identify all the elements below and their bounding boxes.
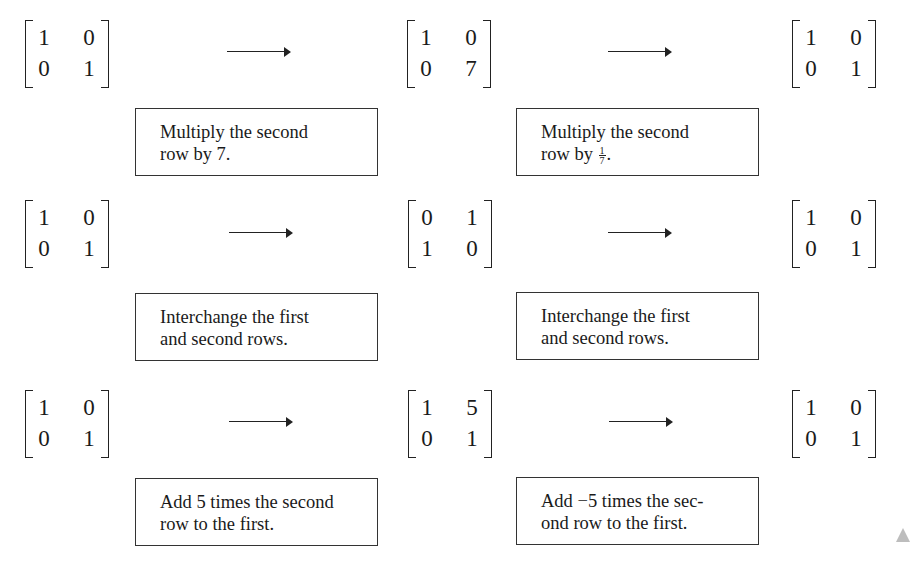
operation-text-line: and second rows. — [541, 327, 748, 349]
matrix-cell: 0 — [35, 237, 53, 260]
right-arrow-icon — [609, 416, 673, 428]
matrix-cell: 0 — [80, 206, 98, 229]
operation-text-line: Add 5 times the second — [160, 491, 367, 513]
identity-matrix-row1: 1 0 0 1 — [25, 20, 109, 88]
matrix-cell: 1 — [80, 57, 98, 80]
result-matrix-row3: 1 0 0 1 — [792, 390, 876, 458]
matrix-cell: 1 — [35, 206, 53, 229]
matrix-cell: 0 — [418, 427, 436, 450]
right-arrow-icon — [608, 227, 672, 239]
matrix-cell: 1 — [35, 396, 53, 419]
matrix-cell: 1 — [80, 427, 98, 450]
left-bracket — [408, 200, 416, 268]
matrix-cell: 1 — [847, 427, 865, 450]
right-arrow-icon — [229, 416, 293, 428]
right-arrow-icon — [608, 46, 672, 58]
operation-text-line: row by 7. — [160, 143, 367, 165]
result-matrix-row2: 1 0 0 1 — [792, 200, 876, 268]
result-matrix-row1: 1 0 0 1 — [792, 20, 876, 88]
operation-text-line: ond row to the first. — [541, 512, 748, 534]
matrix-cell: 0 — [802, 57, 820, 80]
left-bracket — [408, 390, 416, 458]
left-bracket — [25, 200, 33, 268]
matrix-cell: 5 — [463, 396, 481, 419]
matrix-cell: 0 — [462, 26, 480, 49]
left-bracket — [792, 20, 800, 88]
operation-text-line: Multiply the second — [541, 121, 748, 143]
operation-text-line: row to the first. — [160, 513, 367, 535]
elementary-matrix-row3: 1 5 0 1 — [408, 390, 492, 458]
page-corner-marker-icon — [896, 528, 910, 542]
inverse-operation-box: Multiply the second row by 17. — [516, 108, 759, 176]
right-bracket — [484, 200, 492, 268]
operation-text-line: Interchange the first — [160, 306, 367, 328]
text: row by — [541, 144, 598, 164]
inverse-operation-box: Interchange the first and second rows. — [516, 292, 759, 360]
matrix-cell: 1 — [463, 206, 481, 229]
inverse-operation-box: Add −5 times the sec- ond row to the fir… — [516, 477, 759, 545]
operation-box: Interchange the first and second rows. — [135, 293, 378, 361]
matrix-cell: 0 — [35, 57, 53, 80]
matrix-cell: 0 — [802, 427, 820, 450]
operation-box: Add 5 times the second row to the first. — [135, 478, 378, 546]
matrix-cell: 0 — [847, 206, 865, 229]
matrix-cell: 1 — [802, 26, 820, 49]
elementary-matrix-row2: 0 1 1 0 — [408, 200, 492, 268]
matrix-cell: 0 — [463, 237, 481, 260]
right-arrow-icon — [227, 46, 291, 58]
matrix-cell: 0 — [417, 57, 435, 80]
matrix-cell: 0 — [802, 237, 820, 260]
left-bracket — [792, 200, 800, 268]
matrix-cell: 1 — [847, 57, 865, 80]
identity-matrix-row3: 1 0 0 1 — [25, 390, 109, 458]
operation-text-line: row by 17. — [541, 143, 748, 165]
right-bracket — [868, 200, 876, 268]
matrix-cell: 1 — [847, 237, 865, 260]
right-arrow-icon — [229, 227, 293, 239]
matrix-cell: 0 — [80, 26, 98, 49]
matrix-cell: 1 — [417, 26, 435, 49]
right-bracket — [868, 20, 876, 88]
left-bracket — [25, 20, 33, 88]
right-bracket — [101, 200, 109, 268]
matrix-cell: 7 — [462, 57, 480, 80]
matrix-cell: 0 — [80, 396, 98, 419]
right-bracket — [868, 390, 876, 458]
matrix-cell: 1 — [418, 237, 436, 260]
matrix-cell: 1 — [80, 237, 98, 260]
fraction: 17 — [599, 146, 606, 165]
operation-text-line: Add −5 times the sec- — [541, 490, 748, 512]
matrix-cell: 0 — [418, 206, 436, 229]
operation-text-line: Interchange the first — [541, 305, 748, 327]
left-bracket — [792, 390, 800, 458]
right-bracket — [484, 390, 492, 458]
elementary-matrix-row1: 1 0 0 7 — [407, 20, 491, 88]
matrix-cell: 1 — [418, 396, 436, 419]
fraction-denominator: 7 — [599, 156, 606, 165]
right-bracket — [101, 20, 109, 88]
operation-box: Multiply the second row by 7. — [135, 108, 378, 176]
matrix-cell: 1 — [802, 206, 820, 229]
matrix-cell: 0 — [35, 427, 53, 450]
matrix-cell: 1 — [802, 396, 820, 419]
right-bracket — [101, 390, 109, 458]
left-bracket — [25, 390, 33, 458]
right-bracket — [483, 20, 491, 88]
matrix-cell: 0 — [847, 26, 865, 49]
operation-text-line: Multiply the second — [160, 121, 367, 143]
matrix-cell: 0 — [847, 396, 865, 419]
left-bracket — [407, 20, 415, 88]
operation-text-line: and second rows. — [160, 328, 367, 350]
matrix-cell: 1 — [35, 26, 53, 49]
text: . — [607, 144, 612, 164]
matrix-cell: 1 — [463, 427, 481, 450]
identity-matrix-row2: 1 0 0 1 — [25, 200, 109, 268]
